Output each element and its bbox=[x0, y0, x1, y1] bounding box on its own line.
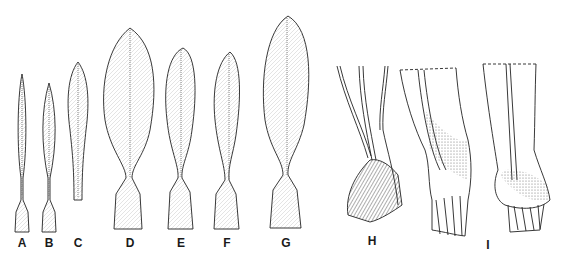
leaf-c bbox=[68, 62, 88, 200]
leaf-g bbox=[263, 16, 308, 228]
leaf-e bbox=[166, 48, 195, 229]
label-g: G bbox=[281, 236, 290, 250]
label-c: C bbox=[74, 236, 83, 250]
stem-base-middle bbox=[400, 68, 471, 236]
stem-base-i bbox=[483, 64, 550, 232]
leaf-b bbox=[42, 83, 56, 232]
label-e: E bbox=[177, 236, 185, 250]
figure-canvas: A B C D E F G H I bbox=[0, 0, 566, 256]
label-i: I bbox=[486, 238, 489, 252]
stem-base-h-left bbox=[337, 66, 402, 222]
leaf-a bbox=[15, 74, 29, 232]
illustration bbox=[0, 0, 566, 256]
label-a: A bbox=[18, 236, 27, 250]
leaf-d bbox=[104, 28, 154, 229]
label-h: H bbox=[368, 234, 377, 248]
label-f: F bbox=[223, 236, 230, 250]
leaf-f bbox=[214, 52, 240, 229]
label-d: D bbox=[126, 236, 135, 250]
label-b: B bbox=[45, 236, 54, 250]
